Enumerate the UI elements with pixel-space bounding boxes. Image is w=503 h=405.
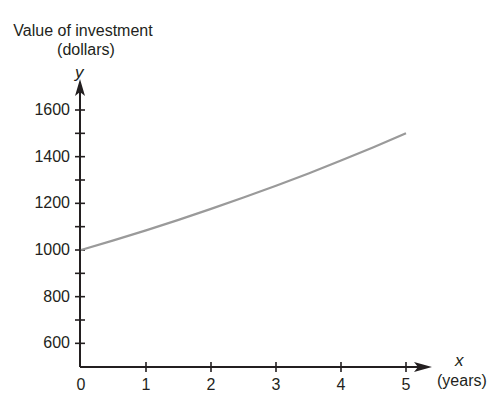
x-axis-title: (years) (437, 372, 487, 390)
y-tick-label-1000: 1000 (26, 241, 70, 259)
y-tick-label-1400: 1400 (26, 148, 70, 166)
y-tick-label-800: 800 (26, 288, 70, 306)
x-tick-label-2: 2 (201, 376, 221, 394)
x-tick-label-0: 0 (71, 376, 91, 394)
chart-plot (0, 0, 503, 405)
x-tick-label-5: 5 (396, 376, 416, 394)
x-tick-label-1: 1 (136, 376, 156, 394)
x-tick-label-3: 3 (266, 376, 286, 394)
y-tick-label-1600: 1600 (26, 101, 70, 119)
x-axis-variable: x (455, 351, 464, 371)
y-tick-label-600: 600 (26, 334, 70, 352)
y-tick-label-1200: 1200 (26, 194, 70, 212)
x-tick-label-4: 4 (331, 376, 351, 394)
investment-curve (81, 133, 406, 250)
